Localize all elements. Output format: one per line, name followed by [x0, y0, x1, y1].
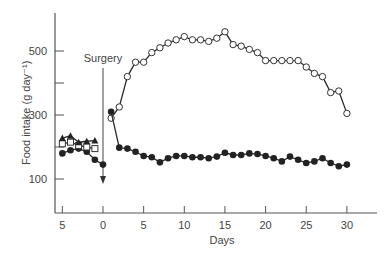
filled-circle-marker [222, 149, 229, 156]
x-tick-label: 0 [100, 219, 106, 231]
x-axis: 5051015202530 [55, 206, 377, 231]
filled-circle-marker [270, 155, 277, 162]
filled-circle-marker [319, 155, 326, 162]
arrow-down-icon [100, 176, 106, 184]
filled-circle-marker [189, 154, 196, 161]
y-axis: 100300500 [29, 13, 64, 213]
filled-circle-marker [100, 161, 107, 168]
food-intake-chart: 100300500 5051015202530 Food intake (g d… [0, 0, 392, 260]
filled-circle-marker [246, 150, 253, 157]
open-circle-marker [116, 104, 122, 110]
filled-circle-marker [327, 160, 334, 167]
y-tick-label: 100 [29, 173, 47, 185]
open-circle-marker [189, 37, 195, 43]
filled-circle-marker [238, 152, 245, 159]
filled-circle-marker [262, 153, 269, 160]
filled-circle-marker [303, 160, 310, 167]
x-tick-label: 25 [300, 219, 312, 231]
open-circle-marker [327, 89, 333, 95]
filled-circle-marker [148, 154, 155, 161]
open-circle-marker [262, 57, 268, 63]
filled-circle-marker [140, 153, 147, 160]
series-open-circles [108, 29, 350, 122]
open-circle-marker [181, 33, 187, 39]
open-circle-marker [246, 46, 252, 52]
filled-circle-marker [124, 145, 131, 152]
open-circle-marker [157, 45, 163, 51]
open-circle-marker [149, 49, 155, 55]
open-square-marker [84, 144, 90, 150]
open-square-marker [92, 146, 98, 152]
filled-circle-marker [132, 149, 139, 156]
x-tick-label: 5 [59, 219, 65, 231]
open-square-marker [59, 141, 65, 147]
filled-circle-marker [295, 157, 302, 164]
filled-triangle-marker [67, 132, 74, 139]
open-circle-marker [238, 43, 244, 49]
open-circle-marker [303, 64, 309, 70]
y-axis-label: Food intake (g day⁻¹) [20, 61, 32, 165]
filled-circle-marker [287, 153, 294, 160]
filled-circle-marker [230, 152, 237, 159]
open-circle-marker [319, 73, 325, 79]
filled-circle-marker [335, 163, 342, 170]
open-circle-marker [165, 40, 171, 46]
open-circle-marker [254, 49, 260, 55]
x-tick-label: 5 [141, 219, 147, 231]
filled-circle-marker [173, 153, 180, 160]
filled-circle-marker [116, 144, 123, 151]
x-axis-label: Days [209, 234, 235, 246]
filled-circle-marker [59, 150, 66, 157]
filled-circle-marker [92, 157, 99, 164]
filled-circle-marker [311, 158, 318, 165]
open-circle-marker [295, 57, 301, 63]
open-circle-marker [344, 110, 350, 116]
x-tick-label: 15 [219, 219, 231, 231]
open-circle-marker [279, 57, 285, 63]
filled-circle-marker [108, 109, 115, 116]
open-circle-marker [287, 57, 293, 63]
open-circle-marker [214, 35, 220, 41]
x-tick-label: 20 [259, 219, 271, 231]
filled-circle-marker [165, 155, 172, 162]
open-circle-marker [311, 70, 317, 76]
open-square-marker [67, 139, 73, 145]
open-circle-marker [132, 59, 138, 65]
filled-circle-marker [254, 151, 261, 158]
filled-circle-marker [197, 154, 204, 161]
open-circle-marker [230, 41, 236, 47]
filled-circle-marker [157, 159, 164, 166]
open-circle-marker [336, 88, 342, 94]
open-circle-marker [140, 59, 146, 65]
open-circle-marker [271, 57, 277, 63]
open-circle-marker [124, 73, 130, 79]
filled-circle-marker [181, 153, 188, 160]
x-tick-label: 10 [178, 219, 190, 231]
filled-circle-marker [279, 158, 286, 165]
filled-circle-marker [344, 161, 351, 168]
open-circle-marker [222, 29, 228, 35]
filled-circle-marker [205, 155, 212, 162]
filled-circle-marker [67, 147, 74, 154]
open-circle-marker [205, 38, 211, 44]
x-tick-label: 30 [341, 219, 353, 231]
filled-circle-marker [214, 153, 221, 160]
surgery-label: Surgery [84, 52, 123, 64]
y-tick-label: 500 [29, 45, 47, 57]
open-circle-marker [197, 37, 203, 43]
open-circle-marker [173, 37, 179, 43]
